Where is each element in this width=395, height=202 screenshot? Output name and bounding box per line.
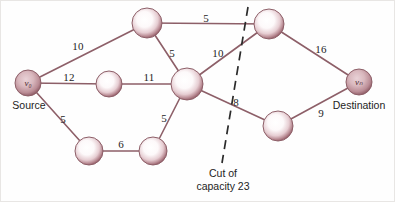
node-vn-name: vₙ — [355, 77, 363, 87]
cut-caption: Cut of capacity 23 — [196, 167, 249, 192]
cut-caption-line2: capacity 23 — [196, 180, 249, 193]
edge-v0-b — [28, 23, 147, 83]
edge-label-d-e: 6 — [118, 138, 124, 150]
node-a — [96, 71, 122, 97]
node-b — [132, 8, 162, 38]
cut-group — [222, 7, 248, 163]
node-e — [139, 137, 167, 165]
edge-label-c-f: 10 — [212, 47, 223, 59]
edge-label-b-f: 5 — [203, 12, 209, 24]
edge-label-b-c: 5 — [169, 47, 175, 59]
edge-label-c-g: 8 — [233, 96, 239, 108]
edge-label-v0-b: 10 — [72, 40, 83, 52]
edge-label-g-vn: 9 — [318, 107, 324, 119]
edge-label-a-c: 11 — [144, 71, 155, 83]
node-c — [171, 68, 203, 100]
cut-dashed-line — [222, 7, 248, 163]
edge-label-v0-d: 5 — [60, 113, 66, 125]
edge-label-c-e: 5 — [161, 112, 167, 124]
network-flow-diagram: v₀ vₙ Source Destination 10 12 5 11 5 5 … — [0, 0, 395, 202]
node-d — [75, 137, 103, 165]
edge-label-f-vn: 16 — [315, 43, 326, 55]
node-v0-name: v₀ — [24, 78, 31, 88]
edge-f-vn — [269, 24, 359, 82]
destination-label: Destination — [333, 99, 386, 111]
cut-caption-line1: Cut of — [196, 167, 249, 180]
node-f — [254, 9, 284, 39]
edge-label-v0-a: 12 — [63, 71, 74, 83]
source-label: Source — [12, 99, 45, 111]
node-g — [263, 111, 293, 141]
nodes-group — [15, 8, 372, 165]
